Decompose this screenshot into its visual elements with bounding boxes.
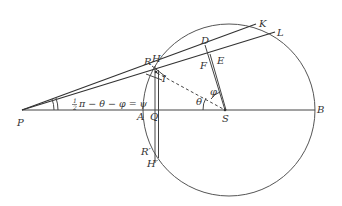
label-L: L [276,27,284,38]
equation-half-den: 2 [72,104,77,111]
label-H-prime: H′ [146,158,159,169]
point-S [224,109,227,112]
point-I [155,71,158,74]
label-E: E [216,55,225,66]
label-I: I [161,73,167,84]
label-A: A [136,111,144,122]
label-R-prime: R′ [140,146,152,157]
equation-label: 1 2 π − θ − φ = ψ [72,97,148,111]
label-H: H [151,53,161,64]
angle-arc-theta [203,98,206,110]
label-S: S [222,113,229,124]
label-theta: θ [196,96,202,107]
angle-arc-P-2 [56,98,58,110]
label-phi: φ [210,86,217,97]
label-P: P [16,117,24,128]
label-D: D [200,35,209,46]
geometry-diagram: P A Q S B R H I D E F K L R′ H′ θ φ 1 2 … [0,0,342,206]
equation-text: π − θ − φ = ψ [78,98,148,109]
label-K: K [258,18,267,29]
line-PL [22,32,275,110]
label-F: F [199,60,208,71]
equation-half-num: 1 [73,97,77,104]
label-Q: Q [150,111,158,122]
label-B: B [316,104,324,115]
label-R: R [143,56,152,67]
